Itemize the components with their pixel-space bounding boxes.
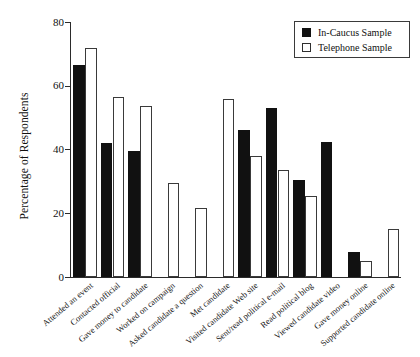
legend-entry-in-caucus: In-Caucus Sample: [302, 25, 405, 40]
y-tick-mark-0: [65, 277, 70, 278]
y-tick-label-60: 60: [38, 80, 64, 91]
y-tick-label-20: 20: [38, 208, 64, 219]
legend-label-in-caucus: In-Caucus Sample: [318, 27, 392, 38]
bar-chart: Percentage of Respondents 80 60 40 20 0 …: [0, 0, 420, 357]
y-tick-mark-60: [65, 86, 70, 87]
legend-entry-telephone: Telephone Sample: [302, 40, 405, 55]
y-tick-label-40: 40: [38, 144, 64, 155]
open-square-icon: [302, 43, 311, 52]
y-tick-label-0: 0: [38, 272, 64, 283]
y-tick-mark-80: [65, 22, 70, 23]
legend: In-Caucus Sample Telephone Sample: [294, 21, 410, 58]
y-tick-mark-20: [65, 213, 70, 214]
plot-area: [71, 22, 401, 277]
bar: [101, 143, 113, 277]
bar: [113, 97, 125, 277]
y-tick-label-80: 80: [38, 17, 64, 28]
bar: [85, 48, 97, 278]
filled-square-icon: [302, 28, 311, 37]
bar: [73, 65, 85, 277]
legend-label-telephone: Telephone Sample: [318, 42, 392, 53]
bar: [223, 99, 235, 278]
y-axis-title: Percentage of Respondents: [16, 29, 32, 284]
y-tick-mark-40: [65, 149, 70, 150]
bar: [266, 108, 278, 277]
